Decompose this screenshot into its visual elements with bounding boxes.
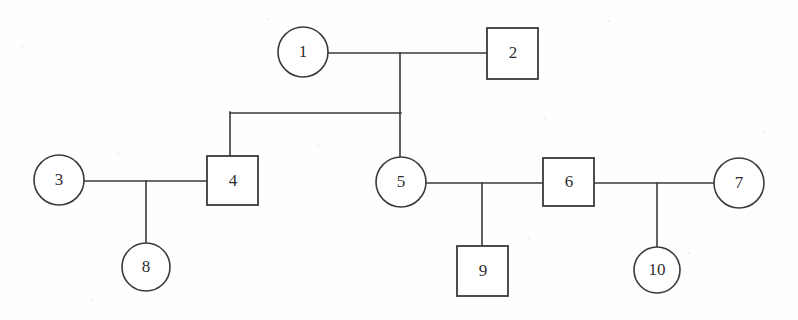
- node-label: 2: [509, 43, 518, 62]
- node-label: 5: [397, 172, 406, 191]
- node-label: 9: [479, 261, 488, 280]
- node-label: 1: [299, 42, 308, 61]
- node-label: 10: [649, 260, 666, 279]
- node-2[interactable]: 2: [487, 28, 538, 79]
- node-label: 6: [565, 172, 574, 191]
- node-8[interactable]: 8: [122, 243, 170, 291]
- node-4[interactable]: 4: [207, 156, 258, 205]
- node-label: 8: [142, 257, 151, 276]
- node-3[interactable]: 3: [34, 155, 84, 205]
- node-5[interactable]: 5: [376, 157, 426, 207]
- node-label: 7: [735, 173, 744, 192]
- node-label: 3: [55, 170, 64, 189]
- node-10[interactable]: 10: [634, 247, 680, 293]
- node-7[interactable]: 7: [714, 158, 764, 208]
- node-1[interactable]: 1: [278, 27, 328, 77]
- node-9[interactable]: 9: [457, 246, 508, 296]
- node-6[interactable]: 6: [543, 158, 594, 206]
- node-label: 4: [229, 171, 238, 190]
- pedigree-diagram: 1 2 3 4 5 6 7 8 9 10: [0, 0, 798, 320]
